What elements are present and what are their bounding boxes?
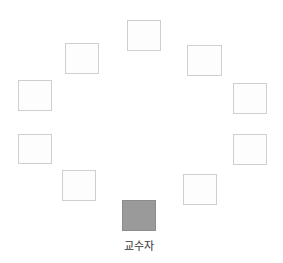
seat-box (233, 134, 267, 165)
seat-box (187, 45, 222, 76)
seat-box (233, 83, 267, 114)
seat-box (127, 20, 161, 51)
seat-box (183, 174, 217, 205)
seat-box (65, 43, 99, 74)
seat-box (18, 80, 52, 111)
seat-box (18, 134, 52, 164)
instructor-label: 교수자 (109, 237, 169, 253)
instructor-seat-box (122, 200, 156, 231)
seat-box (62, 170, 96, 201)
seating-diagram: 교수자 (0, 0, 283, 263)
